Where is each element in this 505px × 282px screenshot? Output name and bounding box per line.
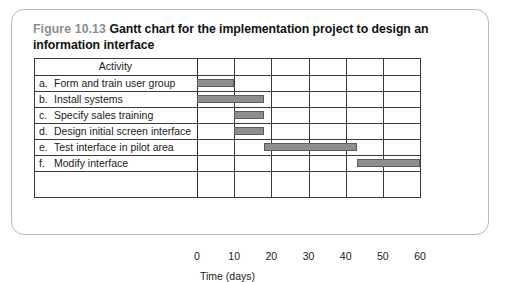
activity-letter: f. — [34, 155, 54, 171]
x-axis-tick-label: 0 — [182, 250, 212, 262]
x-axis-tick-label: 30 — [294, 250, 324, 262]
activity-name: Form and train user group — [54, 77, 175, 89]
grid-column-line — [383, 58, 384, 198]
x-axis-tick-label: 60 — [405, 250, 435, 262]
activity-row-label: a.Form and train user group — [34, 75, 197, 91]
figure-caption: Figure 10.13 Gantt chart for the impleme… — [33, 21, 463, 53]
x-axis-tick-label: 50 — [368, 250, 398, 262]
gantt-bar — [264, 143, 357, 151]
figure-card: Figure 10.13 Gantt chart for the impleme… — [11, 9, 489, 235]
gantt-bar — [197, 95, 264, 103]
activity-row-label: c.Specify sales training — [34, 107, 197, 123]
activity-name: Test interface in pilot area — [54, 141, 174, 153]
grid-column-line — [271, 58, 272, 198]
x-axis-tick-label: 20 — [256, 250, 286, 262]
activity-row-label: d.Design initial screen interface — [34, 123, 197, 139]
activity-row-label: f.Modify interface — [34, 155, 197, 171]
grid-column-line — [420, 58, 421, 198]
activity-row-label: e.Test interface in pilot area — [34, 139, 197, 155]
gantt-bar — [234, 111, 264, 119]
grid-column-line — [309, 58, 310, 198]
activity-name: Design initial screen interface — [54, 125, 191, 137]
figure-number: Figure 10.13 — [33, 22, 106, 36]
activity-row-label: b.Install systems — [34, 91, 197, 107]
gantt-chart: Activity a.Form and train user groupb.In… — [34, 58, 421, 198]
gantt-bar — [197, 79, 234, 87]
activity-letter: c. — [34, 107, 54, 123]
gantt-bar — [357, 159, 420, 167]
column-header-activity: Activity — [34, 58, 197, 75]
grid-row-line — [34, 171, 421, 172]
activity-name: Modify interface — [54, 157, 128, 169]
activity-letter: d. — [34, 123, 54, 139]
activity-letter: e. — [34, 139, 54, 155]
x-axis-tick-label: 40 — [331, 250, 361, 262]
activity-letter: b. — [34, 91, 54, 107]
activity-name: Install systems — [54, 93, 123, 105]
x-axis-title: Time (days) — [34, 270, 421, 282]
gantt-bar — [234, 127, 264, 135]
grid-column-line — [346, 58, 347, 198]
x-axis-tick-label: 10 — [219, 250, 249, 262]
activity-letter: a. — [34, 75, 54, 91]
activity-name: Specify sales training — [54, 109, 153, 121]
